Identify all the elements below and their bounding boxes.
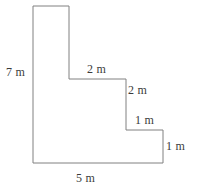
dimension-label-bottom-width: 5 m bbox=[76, 172, 95, 185]
geometry-figure: 7 m 2 m 2 m 1 m 1 m 5 m bbox=[0, 0, 198, 196]
dimension-label-left-height: 7 m bbox=[6, 66, 25, 79]
dimension-label-step1-top: 2 m bbox=[87, 63, 106, 76]
dimension-label-step2-side: 1 m bbox=[166, 140, 185, 153]
dimension-label-step2-top: 1 m bbox=[135, 114, 154, 127]
dimension-label-step1-side: 2 m bbox=[128, 84, 147, 97]
polygon-outline-svg bbox=[0, 0, 198, 196]
